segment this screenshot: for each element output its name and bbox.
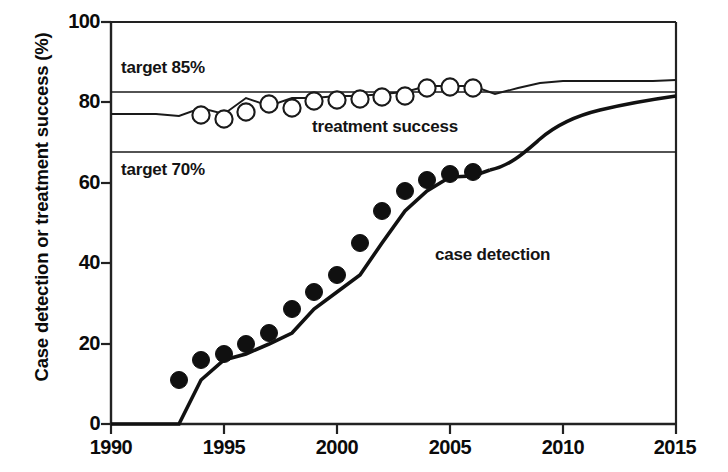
data-point <box>396 87 413 104</box>
data-point <box>306 284 323 301</box>
series-group <box>111 80 676 424</box>
data-point <box>260 95 277 112</box>
data-point <box>329 267 346 284</box>
y-ticks <box>101 22 111 424</box>
data-point <box>352 235 369 252</box>
data-point <box>351 90 368 107</box>
data-point <box>193 352 210 369</box>
data-point <box>284 301 301 318</box>
data-point <box>374 203 391 220</box>
data-point <box>171 372 188 389</box>
chart-root: Case detection or treatment success (%) … <box>0 0 728 472</box>
data-point <box>305 92 322 109</box>
data-point <box>419 172 436 189</box>
data-point <box>192 106 209 123</box>
data-point <box>442 166 459 183</box>
data-point <box>216 346 233 363</box>
data-point <box>283 99 300 116</box>
case-detection-line <box>111 170 490 424</box>
case-detection-markers <box>171 164 482 389</box>
data-point <box>373 88 390 105</box>
plot-area <box>0 0 728 472</box>
data-point <box>397 183 414 200</box>
x-ticks <box>111 424 676 434</box>
data-point <box>328 91 345 108</box>
data-point <box>238 336 255 353</box>
data-point <box>418 79 435 96</box>
data-point <box>464 79 481 96</box>
data-point <box>237 103 254 120</box>
data-point <box>215 110 232 127</box>
data-point <box>441 78 458 95</box>
data-point <box>261 325 278 342</box>
data-point <box>465 164 482 181</box>
case-detection-projection <box>490 96 676 170</box>
